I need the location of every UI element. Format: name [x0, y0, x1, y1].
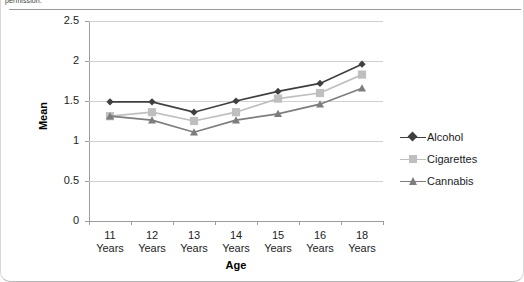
data-point	[148, 98, 155, 105]
data-point	[358, 61, 365, 68]
legend-swatch-square-icon	[400, 153, 426, 165]
legend-swatch-diamond-icon	[400, 131, 426, 143]
data-point	[274, 88, 281, 95]
legend-label: Cigarettes	[427, 153, 477, 165]
data-point	[148, 108, 156, 116]
legend-marker-diamond-icon	[408, 132, 418, 142]
caption-fragment: permission.	[5, 0, 42, 5]
series-alcohol	[106, 61, 365, 116]
data-point	[232, 97, 239, 104]
legend-swatch-triangle-icon	[400, 175, 426, 187]
figure-card: permission. Mean Age 00.511.522.5 11Year…	[0, 0, 524, 282]
legend-label: Alcohol	[427, 131, 463, 143]
data-point	[316, 89, 324, 97]
data-point	[106, 98, 113, 105]
series-line	[110, 64, 362, 112]
data-point	[232, 108, 240, 116]
legend-marker-square-icon	[409, 155, 417, 163]
data-point	[358, 71, 366, 79]
data-point	[274, 95, 282, 103]
line-chart: Mean Age 00.511.522.5 11Years12Years13Ye…	[1, 10, 524, 282]
legend-item-cannabis[interactable]: Cannabis	[400, 170, 520, 192]
legend-item-alcohol[interactable]: Alcohol	[400, 126, 520, 148]
chart-legend: AlcoholCigarettesCannabis	[400, 126, 520, 192]
data-point	[190, 117, 198, 125]
data-point	[190, 109, 197, 116]
legend-label: Cannabis	[427, 175, 473, 187]
legend-marker-triangle-icon	[409, 177, 417, 185]
legend-item-cigarettes[interactable]: Cigarettes	[400, 148, 520, 170]
data-point	[316, 80, 323, 87]
data-point	[358, 84, 366, 91]
